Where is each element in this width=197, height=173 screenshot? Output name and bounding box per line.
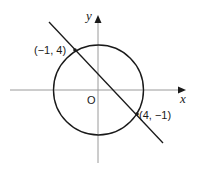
coordinate-diagram: y x O (−1, 4) (4, −1) xyxy=(0,0,197,173)
point-a xyxy=(73,48,77,52)
x-axis-label: x xyxy=(179,91,186,106)
origin-label: O xyxy=(87,94,96,106)
point-a-label: (−1, 4) xyxy=(34,44,66,56)
secant-line xyxy=(49,22,163,143)
y-axis-label: y xyxy=(84,8,92,23)
y-axis-arrow-icon xyxy=(95,15,102,23)
point-b-label: (4, −1) xyxy=(139,109,171,121)
